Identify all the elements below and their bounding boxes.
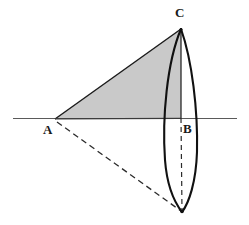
segment-AD-dashed [57, 122, 181, 211]
vertex-c-point [179, 28, 182, 31]
vertex-label-b: B [183, 122, 192, 135]
geometry-canvas [0, 0, 249, 225]
vertex-d-point [180, 210, 184, 214]
vertex-label-a: A [43, 123, 53, 136]
segment-AB [55, 118, 181, 119]
geometry-figure: A B C [0, 0, 249, 225]
segment-BD-dashed [181, 118, 182, 211]
vertex-label-c: C [175, 6, 185, 19]
